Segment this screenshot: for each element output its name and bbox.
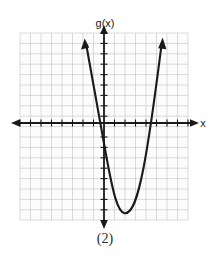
figure-caption: (2) xyxy=(97,231,114,247)
coordinate-plane-graph: g(x) x (2) xyxy=(0,0,212,257)
x-axis-label: x xyxy=(200,117,206,129)
graph-figure: g(x) x (2) xyxy=(0,0,212,257)
y-axis-label: g(x) xyxy=(96,17,115,29)
